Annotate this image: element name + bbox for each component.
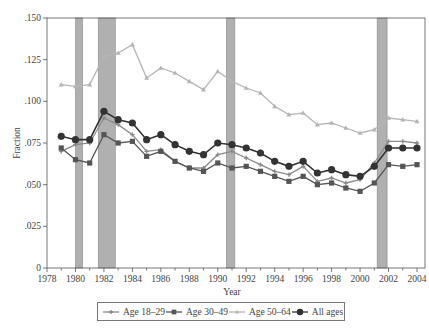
data-point — [413, 144, 420, 151]
x-tick-label: 1996 — [294, 274, 313, 284]
data-point — [329, 176, 333, 180]
data-point — [158, 65, 163, 69]
data-point — [329, 180, 334, 185]
data-point — [401, 139, 405, 143]
y-tick-label: 0 — [36, 263, 41, 273]
y-tick-label: .100 — [24, 96, 41, 106]
data-point — [116, 140, 121, 145]
x-tick-label: 2002 — [379, 274, 398, 284]
y-axis-title: Fraction — [12, 127, 22, 159]
data-point — [172, 159, 177, 164]
data-point — [258, 162, 262, 166]
data-point — [244, 156, 248, 160]
legend-triangle-icon — [228, 307, 246, 317]
data-point — [143, 136, 150, 143]
data-point — [400, 164, 405, 169]
x-tick-label: 1982 — [94, 274, 113, 284]
x-tick-label: 1986 — [151, 274, 170, 284]
legend-square-icon — [165, 307, 183, 317]
legend-item: Age 18–29 — [102, 307, 165, 317]
data-point — [115, 116, 122, 123]
x-tick-label: 1990 — [208, 274, 227, 284]
data-point — [101, 132, 106, 137]
data-point — [58, 133, 65, 140]
x-tick-label: 2000 — [351, 274, 370, 284]
data-point — [157, 131, 164, 138]
legend-item: Age 50–64 — [228, 307, 291, 317]
data-point — [314, 169, 321, 176]
recession-band — [377, 18, 387, 268]
data-point — [200, 151, 207, 158]
data-point — [300, 158, 307, 165]
data-point — [201, 169, 206, 174]
x-tick-label: 1980 — [66, 274, 85, 284]
axes: 0.025.050.075.100.125.150197819801982198… — [24, 13, 426, 284]
data-point — [214, 139, 221, 146]
data-point — [258, 169, 263, 174]
legend-item: Age 30–49 — [165, 307, 228, 317]
x-tick-label: 1984 — [123, 274, 142, 284]
data-point — [244, 164, 249, 169]
data-point — [187, 165, 192, 170]
legend-label: Age 30–49 — [186, 307, 228, 317]
y-tick-label: .075 — [24, 138, 41, 148]
data-point — [73, 157, 78, 162]
data-point — [386, 162, 391, 167]
data-point — [158, 149, 163, 154]
x-tick-label: 1998 — [322, 274, 341, 284]
legend-label: All ages — [312, 307, 343, 317]
data-point — [343, 185, 348, 190]
line-chart: 0.025.050.075.100.125.150197819801982198… — [0, 0, 429, 335]
legend-label: Age 18–29 — [123, 307, 165, 317]
data-point — [100, 108, 107, 115]
data-point — [228, 141, 235, 148]
y-tick-label: .125 — [24, 55, 41, 65]
y-tick-label: .025 — [24, 221, 41, 231]
data-point — [59, 145, 64, 150]
x-axis-title: Year — [223, 287, 241, 297]
data-point — [315, 182, 320, 187]
legend-item: All ages — [291, 307, 343, 317]
x-tick-label: 1994 — [265, 274, 284, 284]
data-point — [372, 180, 377, 185]
y-tick-label: .150 — [24, 13, 41, 23]
data-point — [285, 163, 292, 170]
legend-plus-icon — [102, 307, 120, 317]
data-point — [271, 158, 278, 165]
legend-label: Age 50–64 — [249, 307, 291, 317]
data-point — [371, 163, 378, 170]
data-point — [86, 136, 93, 143]
data-point — [171, 141, 178, 148]
data-point — [272, 169, 276, 173]
data-point — [130, 42, 135, 46]
data-point — [130, 139, 135, 144]
data-point — [87, 160, 92, 165]
legend: Age 18–29Age 30–49Age 50–64All ages — [97, 302, 345, 321]
x-tick-label: 1978 — [38, 274, 57, 284]
data-point — [342, 171, 349, 178]
data-point — [301, 174, 306, 179]
data-point — [414, 162, 419, 167]
legend-circle-icon — [291, 307, 309, 317]
data-point — [72, 136, 79, 143]
data-point — [272, 174, 277, 179]
x-tick-label: 1992 — [237, 274, 256, 284]
y-tick-label: .050 — [24, 180, 41, 190]
data-point — [257, 149, 264, 156]
data-point — [229, 165, 234, 170]
data-point — [357, 189, 362, 194]
data-point — [286, 179, 291, 184]
x-tick-label: 1988 — [180, 274, 199, 284]
data-point — [215, 69, 220, 73]
data-point — [344, 181, 348, 185]
data-point — [186, 148, 193, 155]
data-point — [129, 119, 136, 126]
data-point — [243, 144, 250, 151]
data-point — [215, 160, 220, 165]
data-point — [385, 144, 392, 151]
data-point — [328, 166, 335, 173]
x-tick-label: 2004 — [408, 274, 427, 284]
data-point — [144, 154, 149, 159]
data-point — [399, 144, 406, 151]
data-point — [356, 173, 363, 180]
